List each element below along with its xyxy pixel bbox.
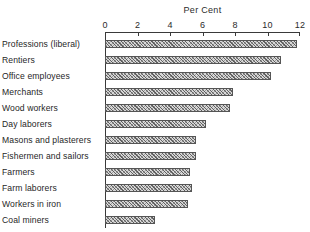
bar-category-label: Farmers	[2, 164, 101, 180]
x-tick-label-10: 10	[262, 20, 272, 30]
bar-track	[105, 84, 305, 100]
bar-track	[105, 164, 305, 180]
x-axis-tick-labels: 024681012	[105, 20, 300, 31]
bar-row: Farmers	[0, 164, 310, 180]
x-tick-label-8: 8	[232, 20, 237, 30]
bar-category-label: Professions (liberal)	[2, 36, 101, 52]
bar	[105, 216, 155, 224]
bar-track	[105, 180, 305, 196]
bar-track	[105, 132, 305, 148]
bar-category-label: Workers in iron	[2, 196, 101, 212]
x-axis: 024681012	[105, 20, 300, 34]
bar-row: Office employees	[0, 68, 310, 84]
bar-row: Wood workers	[0, 100, 310, 116]
bar-row: Masons and plasterers	[0, 132, 310, 148]
bar-track	[105, 36, 305, 52]
bar	[105, 184, 192, 192]
bar-track	[105, 148, 305, 164]
bar-category-label: Farm laborers	[2, 180, 101, 196]
bar-row: Merchants	[0, 84, 310, 100]
bar	[105, 168, 190, 176]
bar	[105, 152, 196, 160]
x-tick-label-4: 4	[167, 20, 172, 30]
bar	[105, 72, 271, 80]
bar-category-label: Office employees	[2, 68, 101, 84]
x-tick-label-6: 6	[200, 20, 205, 30]
bar-row: Fishermen and sailors	[0, 148, 310, 164]
bar-category-label: Fishermen and sailors	[2, 148, 101, 164]
x-tick-label-12: 12	[295, 20, 305, 30]
bar-track	[105, 100, 305, 116]
bar	[105, 120, 206, 128]
bar-track	[105, 212, 305, 228]
bar-track	[105, 116, 305, 132]
bar-category-label: Merchants	[2, 84, 101, 100]
chart-title: Per Cent	[105, 5, 300, 15]
bar	[105, 88, 233, 96]
bar-track	[105, 196, 305, 212]
bar	[105, 40, 297, 48]
bar	[105, 136, 196, 144]
x-tick-label-0: 0	[102, 20, 107, 30]
bar	[105, 56, 281, 64]
bar-track	[105, 52, 305, 68]
bar-rows: Professions (liberal)RentiersOffice empl…	[0, 36, 310, 228]
bar-category-label: Wood workers	[2, 100, 101, 116]
bar-row: Coal miners	[0, 212, 310, 228]
bar-row: Workers in iron	[0, 196, 310, 212]
bar-category-label: Day laborers	[2, 116, 101, 132]
bar-row: Rentiers	[0, 52, 310, 68]
bar-chart: Per Cent 024681012 Professions (liberal)…	[0, 0, 310, 232]
bar-category-label: Coal miners	[2, 212, 101, 228]
bar-row: Farm laborers	[0, 180, 310, 196]
bar-category-label: Masons and plasterers	[2, 132, 101, 148]
bar-category-label: Rentiers	[2, 52, 101, 68]
bar	[105, 104, 230, 112]
bar-track	[105, 68, 305, 84]
bar	[105, 200, 188, 208]
bar-row: Day laborers	[0, 116, 310, 132]
bar-row: Professions (liberal)	[0, 36, 310, 52]
x-tick-label-2: 2	[135, 20, 140, 30]
